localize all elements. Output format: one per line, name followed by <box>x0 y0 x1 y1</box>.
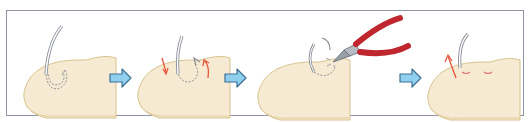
finger-2 <box>138 56 230 118</box>
pliers-icon <box>333 18 408 62</box>
step-1-hook-embedded <box>24 26 116 118</box>
finger-3 <box>258 58 350 120</box>
arrow-right-icon <box>400 69 421 87</box>
step-4-back-out <box>428 34 520 120</box>
finger-4 <box>428 58 520 120</box>
step-3-cut-barb <box>258 18 408 120</box>
finger-1 <box>24 56 116 118</box>
fishhook-removal-diagram <box>0 0 532 122</box>
step-2-push-through <box>138 36 230 118</box>
